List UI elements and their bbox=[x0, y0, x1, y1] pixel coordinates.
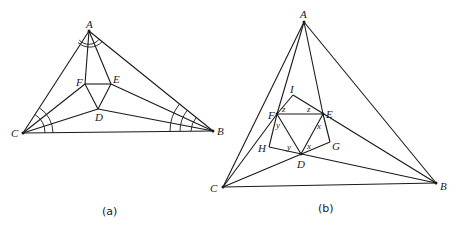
label-b-I: I bbox=[289, 83, 295, 95]
label-b-G: G bbox=[332, 140, 340, 152]
figure-b-segments bbox=[223, 22, 436, 187]
label-a-F: F bbox=[75, 76, 83, 88]
label-b-B: B bbox=[440, 180, 447, 192]
angle-labels-b: z z y y x x bbox=[275, 104, 321, 152]
caption-b: (b) bbox=[318, 202, 334, 215]
label-a-B: B bbox=[217, 125, 224, 137]
label-b-D: D bbox=[296, 158, 305, 170]
angle-label-z2: z bbox=[306, 104, 311, 114]
label-a-A: A bbox=[85, 18, 93, 30]
figure-a: A B C D E F (a) bbox=[11, 18, 224, 218]
label-b-H: H bbox=[257, 142, 267, 154]
label-a-C: C bbox=[11, 127, 19, 139]
geometry-diagram: A B C D E F (a) A bbox=[0, 0, 456, 230]
caption-a: (a) bbox=[102, 205, 117, 218]
label-b-C: C bbox=[210, 182, 218, 194]
angle-label-x1: x bbox=[316, 121, 321, 131]
angle-label-y2: y bbox=[286, 142, 291, 152]
label-a-E: E bbox=[112, 73, 120, 85]
angle-label-x2: x bbox=[306, 141, 311, 151]
label-b-E: E bbox=[325, 108, 333, 120]
figure-b: A B C D E F G H I z z y y x x (b) bbox=[210, 8, 447, 215]
label-b-A: A bbox=[299, 8, 307, 20]
label-b-F: F bbox=[267, 109, 275, 121]
angle-label-z1: z bbox=[281, 104, 286, 114]
label-a-D: D bbox=[94, 111, 103, 123]
angle-label-y1: y bbox=[275, 120, 280, 130]
